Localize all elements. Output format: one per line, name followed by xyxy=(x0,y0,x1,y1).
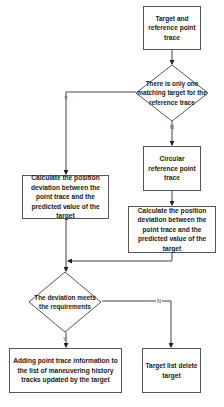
edge-label-decision1-yes: Y xyxy=(64,95,68,101)
node-start-label: Target and reference point trace xyxy=(145,14,199,43)
node-circular: Circular reference point trace xyxy=(143,146,201,191)
node-calc-right-label: Calculate the position deviation between… xyxy=(130,206,214,254)
node-decision1: There is only one matching target for th… xyxy=(136,80,208,106)
node-calc-left: Calculate the position deviation between… xyxy=(22,175,109,219)
node-decision2: The deviation meets the requirements xyxy=(31,288,99,316)
edge-label-decision2-yes: Y xyxy=(63,336,67,342)
edge-label-decision1-no: N xyxy=(170,124,174,130)
node-delete-label: Target list delete target xyxy=(144,361,199,380)
node-decision2-label: The deviation meets the requirements xyxy=(31,293,99,312)
node-calc-left-label: Calculate the position deviation between… xyxy=(24,173,107,221)
edge-label-decision2-no: N xyxy=(156,298,162,304)
edge-calcright-merge xyxy=(68,253,172,261)
edge-decision2-no xyxy=(102,301,171,347)
node-decision1-label: There is only one matching target for th… xyxy=(136,79,208,107)
node-circular-label: Circular reference point trace xyxy=(145,154,199,183)
node-add-info-label: Adding point trace information to the li… xyxy=(11,356,120,385)
node-calc-right: Calculate the position deviation between… xyxy=(128,206,216,253)
node-start: Target and reference point trace xyxy=(143,6,201,50)
node-delete: Target list delete target xyxy=(142,348,201,393)
node-add-info: Adding point trace information to the li… xyxy=(9,348,122,393)
edge-decision1-yes xyxy=(66,92,136,174)
